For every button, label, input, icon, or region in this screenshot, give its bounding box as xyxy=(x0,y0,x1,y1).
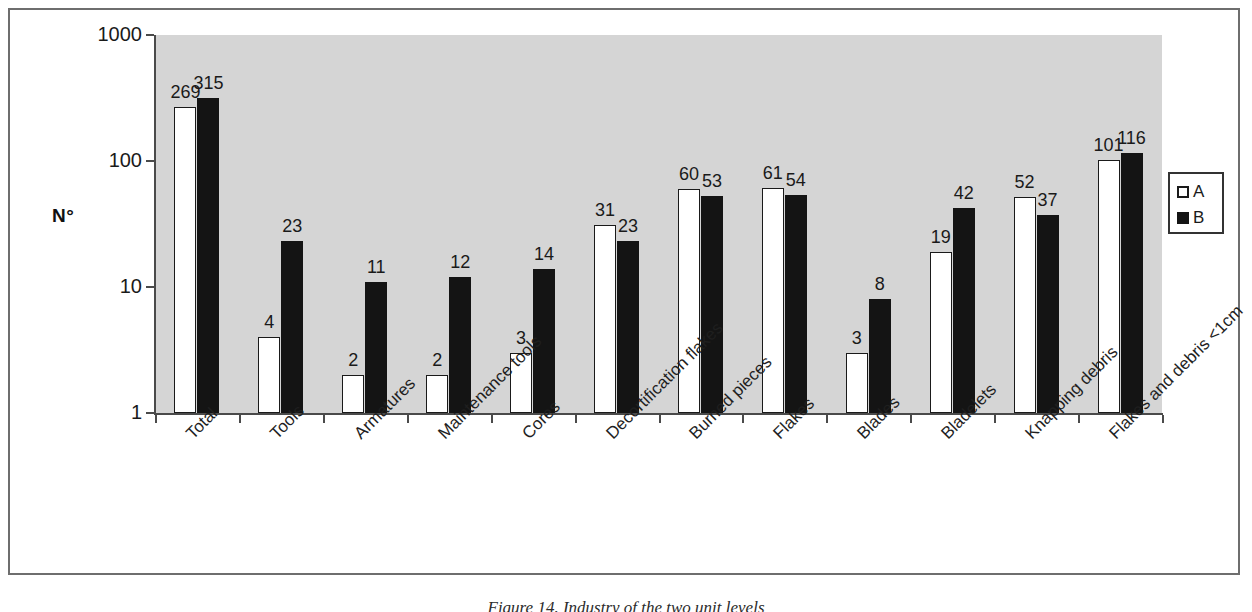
x-tick-mark xyxy=(239,415,241,423)
figure-container: N° 1000100101 26931542321121231431236053… xyxy=(0,0,1252,612)
legend: A B xyxy=(1168,172,1224,234)
bar-b-6 xyxy=(701,196,723,413)
bar-value-label: 54 xyxy=(772,171,820,189)
x-tick-mark xyxy=(910,415,912,423)
y-tick-label: 1 xyxy=(131,402,142,422)
bar-b-3 xyxy=(449,277,471,413)
bar-value-label: 14 xyxy=(520,245,568,263)
bar-b-7 xyxy=(785,195,807,413)
bar-a-9 xyxy=(930,252,952,413)
bar-chart: N° 1000100101 26931542321121231431236053… xyxy=(0,0,1252,612)
bar-value-label: 19 xyxy=(917,228,965,246)
x-tick-mark xyxy=(155,415,157,423)
x-tick-mark xyxy=(994,415,996,423)
x-tick-mark xyxy=(323,415,325,423)
x-tick-mark xyxy=(1162,415,1164,423)
bar-value-label: 23 xyxy=(268,217,316,235)
bar-value-label: 53 xyxy=(688,172,736,190)
legend-label-b: B xyxy=(1193,209,1204,226)
bar-value-label: 116 xyxy=(1108,129,1156,147)
bar-a-7 xyxy=(762,188,784,413)
bar-value-label: 4 xyxy=(245,313,293,331)
y-tick-label: 100 xyxy=(109,150,142,170)
bar-value-label: 37 xyxy=(1024,191,1072,209)
bar-value-label: 2 xyxy=(329,351,377,369)
bar-value-label: 315 xyxy=(184,74,232,92)
y-axis-line xyxy=(154,35,156,415)
figure-caption: Figure 14. Industry of the two unit leve… xyxy=(0,598,1252,612)
y-tick-label: 1000 xyxy=(98,24,143,44)
bar-a-5 xyxy=(594,225,616,413)
bar-b-2 xyxy=(365,282,387,413)
x-tick-mark xyxy=(1078,415,1080,423)
x-tick-mark xyxy=(575,415,577,423)
x-tick-mark xyxy=(742,415,744,423)
x-tick-mark xyxy=(659,415,661,423)
bar-value-label: 3 xyxy=(833,329,881,347)
legend-swatch-b-icon xyxy=(1177,212,1189,224)
bar-value-label: 2 xyxy=(413,351,461,369)
bar-a-6 xyxy=(678,189,700,413)
bar-b-0 xyxy=(197,98,219,413)
bar-b-5 xyxy=(617,241,639,413)
bar-a-10 xyxy=(1014,197,1036,413)
x-tick-mark xyxy=(407,415,409,423)
legend-item-b: B xyxy=(1177,209,1204,226)
y-tick-mark xyxy=(146,412,154,414)
bar-a-2 xyxy=(342,375,364,413)
bar-value-label: 11 xyxy=(352,258,400,276)
bar-b-10 xyxy=(1037,215,1059,413)
bar-value-label: 52 xyxy=(1001,173,1049,191)
y-tick-mark xyxy=(146,286,154,288)
y-tick-label: 10 xyxy=(120,276,142,296)
bar-value-label: 23 xyxy=(604,217,652,235)
legend-swatch-a-icon xyxy=(1177,186,1189,198)
bar-value-label: 42 xyxy=(940,184,988,202)
y-axis-title: N° xyxy=(52,205,74,227)
legend-label-a: A xyxy=(1193,183,1204,200)
bar-a-3 xyxy=(426,375,448,413)
bar-value-label: 8 xyxy=(856,275,904,293)
legend-item-a: A xyxy=(1177,183,1204,200)
y-tick-mark xyxy=(146,34,154,36)
y-tick-mark xyxy=(146,160,154,162)
bar-b-11 xyxy=(1121,153,1143,413)
bar-a-1 xyxy=(258,337,280,413)
bar-a-0 xyxy=(174,107,196,413)
bar-a-8 xyxy=(846,353,868,413)
x-tick-mark xyxy=(491,415,493,423)
bar-value-label: 12 xyxy=(436,253,484,271)
x-tick-mark xyxy=(826,415,828,423)
